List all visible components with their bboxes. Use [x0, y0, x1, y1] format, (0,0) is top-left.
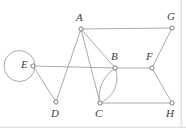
vertex-label-H: H	[166, 108, 174, 119]
vertex-label-G: G	[167, 11, 175, 22]
vertex-label-F: F	[146, 51, 153, 62]
vertex-layer	[31, 26, 174, 105]
vertex-label-D: D	[51, 108, 59, 119]
edge-B-C-left-arc	[99, 68, 115, 103]
edge-E-D	[33, 66, 56, 102]
edge-F-H	[152, 68, 172, 103]
vertex-label-B: B	[111, 51, 118, 62]
vertex-B[interactable]	[113, 66, 117, 70]
vertex-label-A: A	[76, 12, 83, 23]
edge-A-G	[81, 28, 172, 29]
vertex-G[interactable]	[170, 26, 174, 30]
vertex-F[interactable]	[150, 66, 154, 70]
vertex-D[interactable]	[54, 100, 58, 104]
vertex-E[interactable]	[31, 64, 35, 68]
edge-layer	[4, 28, 172, 103]
vertex-label-E: E	[21, 59, 28, 70]
graph-figure: A B C D E F G H	[0, 0, 186, 130]
vertex-H[interactable]	[170, 101, 174, 105]
vertex-label-C: C	[95, 108, 102, 119]
edge-A-D	[56, 29, 81, 102]
edge-E-E-self-loop	[4, 51, 35, 82]
edge-F-G	[152, 28, 172, 68]
vertex-A[interactable]	[79, 27, 83, 31]
vertex-C[interactable]	[98, 101, 102, 105]
edge-E-B	[33, 66, 115, 68]
